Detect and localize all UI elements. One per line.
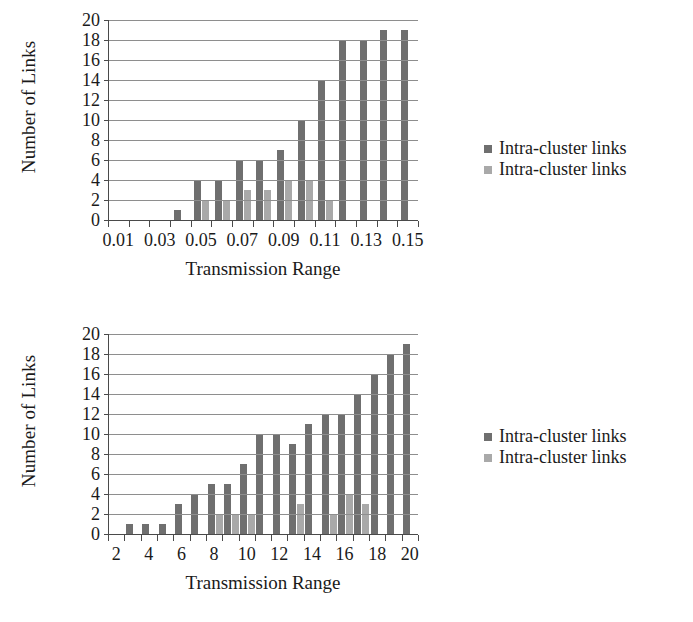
chart-legend-top: Intra-cluster links Intra-cluster links — [484, 138, 684, 180]
y-tick-label: 12 — [82, 91, 100, 109]
y-tick-mark — [104, 454, 109, 455]
y-tick-mark — [104, 180, 109, 181]
x-tick-label: 10 — [238, 544, 256, 565]
bar — [339, 40, 346, 220]
x-tick-mark — [191, 221, 192, 227]
y-tick-mark — [104, 20, 109, 21]
x-tick-mark — [239, 535, 240, 541]
bar — [202, 200, 209, 220]
y-tick-mark — [104, 80, 109, 81]
gridline — [109, 200, 418, 201]
y-tick-mark — [104, 434, 109, 435]
x-tick-label: 0.05 — [185, 230, 217, 251]
x-tick-mark — [335, 221, 336, 227]
x-tick-label: 0.13 — [351, 230, 383, 251]
x-tick-mark — [353, 535, 354, 541]
y-tick-label: 16 — [82, 51, 100, 69]
chart-plot-area-top: Number of Links 02468101214161820 Transm… — [0, 4, 470, 294]
y-tick-label: 4 — [91, 171, 100, 189]
x-tick-mark — [255, 535, 256, 541]
x-tick-label: 14 — [303, 544, 321, 565]
x-tick-mark — [273, 221, 274, 227]
x-tick-label: 0.03 — [144, 230, 176, 251]
bar — [256, 434, 263, 534]
legend-label: Intra-cluster links — [499, 138, 626, 159]
x-tick-mark — [170, 221, 171, 227]
gridline — [109, 394, 418, 395]
bar — [174, 210, 181, 220]
bar — [380, 30, 387, 220]
chart-figure-top: Number of Links 02468101214161820 Transm… — [0, 4, 693, 304]
y-axis-label: Number of Links — [18, 12, 40, 202]
x-tick-label: 18 — [368, 544, 386, 565]
bar — [232, 514, 239, 534]
x-tick-mark — [418, 221, 419, 227]
bar — [224, 484, 231, 534]
y-tick-label: 2 — [91, 505, 100, 523]
x-tick-mark — [108, 535, 109, 541]
bar — [273, 434, 280, 534]
y-axis-label: Number of Links — [18, 326, 40, 516]
x-tick-mark — [190, 535, 191, 541]
gridline — [109, 80, 418, 81]
y-tick-label: 14 — [82, 385, 100, 403]
gridline — [109, 160, 418, 161]
gridline — [109, 354, 418, 355]
x-tick-label: 0.15 — [392, 230, 424, 251]
y-tick-label: 8 — [91, 131, 100, 149]
y-tick-label: 6 — [91, 151, 100, 169]
legend-item: Intra-cluster links — [484, 447, 684, 468]
y-tick-mark — [104, 394, 109, 395]
gridline — [109, 40, 418, 41]
y-tick-mark — [104, 514, 109, 515]
legend-label: Intra-cluster links — [499, 426, 626, 447]
y-tick-label: 16 — [82, 365, 100, 383]
gridline — [109, 374, 418, 375]
bar — [330, 514, 337, 534]
gridline — [109, 20, 418, 21]
y-tick-label: 20 — [82, 325, 100, 343]
x-tick-mark — [418, 535, 419, 541]
x-axis-line — [108, 534, 418, 541]
y-axis-tick-labels: 02468101214161820 — [58, 334, 104, 534]
gridline — [109, 60, 418, 61]
y-tick-mark — [104, 374, 109, 375]
y-tick-label: 14 — [82, 71, 100, 89]
y-tick-label: 20 — [82, 11, 100, 29]
bar — [208, 484, 215, 534]
x-tick-label: 0.01 — [103, 230, 135, 251]
x-tick-label: 8 — [210, 544, 219, 565]
bar — [318, 80, 325, 220]
y-tick-label: 4 — [91, 485, 100, 503]
bar — [403, 344, 410, 534]
gridline — [109, 454, 418, 455]
x-tick-mark — [397, 221, 398, 227]
y-tick-label: 10 — [82, 425, 100, 443]
x-axis-label: Transmission Range — [108, 572, 418, 594]
x-axis-label: Transmission Range — [108, 258, 418, 280]
gridline — [109, 494, 418, 495]
x-tick-mark — [287, 535, 288, 541]
plot-canvas — [108, 20, 418, 220]
chart-figure-bottom: Number of Links 02468101214161820 Transm… — [0, 318, 693, 618]
y-tick-mark — [104, 160, 109, 161]
x-tick-label: 0.07 — [227, 230, 259, 251]
x-tick-mark — [369, 535, 370, 541]
bar — [289, 444, 296, 534]
y-tick-mark — [104, 334, 109, 335]
x-tick-mark — [320, 535, 321, 541]
bar — [256, 160, 263, 220]
gridline — [109, 474, 418, 475]
bar — [297, 504, 304, 534]
x-tick-mark — [336, 535, 337, 541]
gridline — [109, 140, 418, 141]
bar — [354, 394, 361, 534]
x-tick-mark — [108, 221, 109, 227]
y-tick-mark — [104, 60, 109, 61]
y-tick-mark — [104, 140, 109, 141]
x-tick-label: 0.11 — [310, 230, 341, 251]
chart-legend-bottom: Intra-cluster links Intra-cluster links — [484, 426, 684, 468]
gridline — [109, 434, 418, 435]
y-tick-label: 6 — [91, 465, 100, 483]
bar — [126, 524, 133, 534]
